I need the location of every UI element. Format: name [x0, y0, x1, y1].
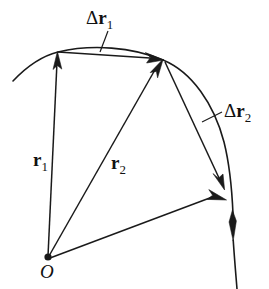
vector-r3-group [50, 190, 227, 258]
vector-r1-shaft [48, 62, 57, 256]
label-delta-r1-subscript: 1 [107, 17, 113, 32]
label-delta-r1-delta: Δ [86, 7, 98, 28]
origin-point-marker [44, 253, 51, 260]
label-r2-subscript: 2 [119, 162, 125, 177]
vector-r2-group [49, 59, 163, 256]
vector-delta-r1-group [58, 52, 164, 63]
vector-delta-r1-shaft [58, 52, 150, 58]
vector-r3-shaft [50, 196, 215, 258]
vector-r2-shaft [49, 68, 156, 256]
label-r1-subscript: 1 [41, 159, 47, 174]
leader-line-delta-r2 [202, 112, 222, 122]
trajectory-curve [13, 48, 233, 214]
vector-delta-r2-group [165, 62, 225, 190]
label-delta-r2-delta: Δ [224, 100, 236, 121]
figure-root: Δr1 Δr2 r1 r2 O [0, 0, 269, 289]
trajectory-arrowhead-icon [229, 210, 236, 241]
label-delta-r1-symbol: r [98, 7, 106, 28]
leader-line-delta-r1 [100, 31, 108, 52]
vector-delta-r2-shaft [165, 62, 219, 178]
label-origin: O [40, 262, 54, 281]
label-delta-r2-symbol: r [236, 100, 244, 121]
label-r1: r1 [33, 150, 48, 174]
vector-r3-arrowhead-icon [207, 190, 226, 200]
label-delta-r2: Δr2 [224, 101, 251, 125]
label-delta-r1: Δr1 [86, 8, 113, 32]
label-r2: r2 [111, 153, 126, 177]
trajectory-curve-tail [233, 240, 237, 289]
vector-r1-group [48, 52, 62, 257]
label-delta-r2-subscript: 2 [245, 110, 251, 125]
vector-diagram-canvas [0, 0, 269, 289]
